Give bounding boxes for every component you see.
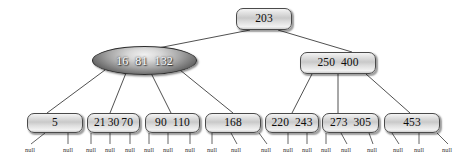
null-edge: [31, 133, 45, 144]
node-keys: 250400: [317, 57, 358, 69]
null-edge: [259, 133, 267, 144]
null-leaf-label: null: [341, 147, 351, 153]
null-edge: [392, 133, 399, 144]
node-key: 400: [341, 57, 359, 69]
btree-node-root[interactable]: 203: [236, 8, 292, 30]
btree-node-leaf-7[interactable]: 453: [384, 113, 440, 133]
null-edge: [231, 133, 237, 144]
btree-node-leaf-6[interactable]: 273305: [322, 113, 379, 133]
btree-node-leaf-4[interactable]: 168: [205, 113, 261, 133]
btree-node-leaf-5[interactable]: 220243: [265, 113, 319, 133]
btree-diagram-canvas: 2031681132250400521307090110168220243273…: [0, 0, 460, 166]
node-key: 90: [155, 117, 167, 129]
node-key: 81: [135, 55, 147, 67]
node-key: 453: [403, 117, 421, 129]
node-key: 220: [271, 117, 289, 129]
null-leaf-label: null: [63, 147, 73, 153]
node-keys: 5: [52, 117, 58, 129]
node-keys: 213070: [94, 117, 133, 129]
btree-node-leaf-2[interactable]: 213070: [87, 113, 140, 133]
btree-node-leaf-1[interactable]: 5: [27, 113, 83, 133]
tree-edge: [180, 70, 233, 113]
node-key: 5: [52, 117, 58, 129]
null-leaf-label: null: [86, 147, 96, 153]
node-key: 243: [295, 117, 313, 129]
tree-edge: [47, 70, 105, 113]
null-edge: [369, 133, 373, 144]
null-leaf-label: null: [302, 147, 312, 153]
null-edge: [437, 133, 448, 144]
node-key: 132: [155, 55, 173, 67]
null-leaf-label: null: [414, 147, 424, 153]
null-leaf-label: null: [25, 147, 35, 153]
node-key: 16: [116, 55, 128, 67]
null-leaf-label: null: [125, 147, 135, 153]
tree-edge: [278, 30, 352, 52]
null-edge: [341, 133, 347, 144]
node-key: 203: [255, 13, 273, 25]
node-keys: 203: [255, 13, 273, 25]
edge-layer: [0, 0, 460, 166]
node-keys: 168: [224, 117, 242, 129]
btree-node-leaf-3[interactable]: 90110: [145, 113, 200, 133]
null-leaf-label: null: [231, 147, 241, 153]
tree-edge: [110, 73, 126, 113]
node-key: 110: [173, 117, 190, 129]
null-leaf-label: null: [393, 147, 403, 153]
null-leaf-label: null: [321, 147, 331, 153]
null-leaf-label: null: [261, 147, 271, 153]
node-keys: 453: [403, 117, 421, 129]
node-key: 168: [224, 117, 242, 129]
node-key: 30: [108, 117, 120, 129]
null-leaf-label: null: [185, 147, 195, 153]
node-key: 250: [317, 57, 335, 69]
null-leaf-label: null: [367, 147, 377, 153]
null-leaf-label: null: [144, 147, 154, 153]
node-key: 21: [94, 117, 106, 129]
tree-edge: [292, 74, 312, 113]
tree-edge: [151, 73, 171, 113]
null-leaf-label: null: [207, 147, 217, 153]
node-key: 70: [121, 117, 133, 129]
node-keys: 90110: [155, 117, 190, 129]
null-leaf-label: null: [283, 147, 293, 153]
node-key: 305: [354, 117, 372, 129]
node-keys: 1681132: [116, 55, 173, 67]
btree-node-internal-right[interactable]: 250400: [300, 52, 376, 74]
btree-node-internal-left[interactable]: 1681132: [92, 46, 197, 75]
null-leaf-label: null: [105, 147, 115, 153]
node-key: 273: [330, 117, 348, 129]
node-keys: 273305: [330, 117, 371, 129]
node-keys: 220243: [271, 117, 312, 129]
tree-edge: [366, 74, 410, 113]
tree-edge: [158, 30, 250, 48]
null-leaf-label: null: [442, 147, 452, 153]
null-leaf-label: null: [163, 147, 173, 153]
